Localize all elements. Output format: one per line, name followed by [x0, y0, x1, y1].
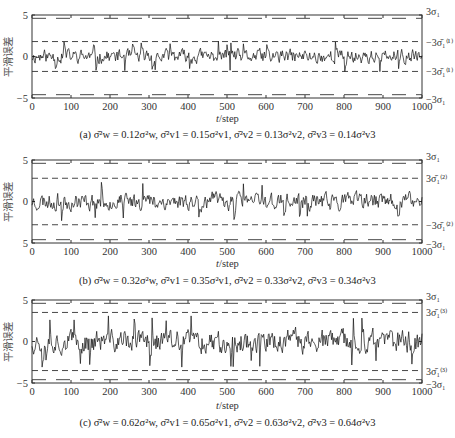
smoothing-error-line	[32, 182, 422, 220]
x-tick-label: 700	[297, 101, 313, 112]
x-tick-label: 500	[219, 101, 235, 112]
y-axis-label: 平滑误差	[2, 37, 14, 77]
x-tick-label: 400	[180, 386, 196, 397]
caption-a: (a) σ̄²w = 0.12σ²w, σ̄²v1 = 0.15σ²v1, σ̄…	[0, 129, 455, 140]
bound-label: −3σ₁	[426, 379, 446, 390]
caption-c: (c) σ̄²w = 0.62σ²w, σ̄²v1 = 0.65σ²v1, σ̄…	[0, 417, 455, 428]
x-tick-label: 800	[336, 386, 352, 397]
x-tick-label: 500	[219, 386, 235, 397]
x-tick-label: 200	[102, 386, 118, 397]
y-tick-label: 0	[23, 51, 28, 62]
y-tick-label: 5	[23, 155, 28, 166]
x-tick-label: 200	[102, 246, 118, 257]
x-tick-label: 700	[297, 246, 313, 257]
bound-label: −3σ̄₁⁽¹⁾	[426, 37, 453, 48]
y-axis-label: 平滑误差	[2, 182, 14, 222]
bound-label: 3σ₁	[426, 291, 440, 302]
smoothing-error-line	[32, 41, 422, 72]
bound-label: −3σ̄₁⁽¹⁾	[426, 66, 453, 77]
x-tick-label: 100	[63, 101, 79, 112]
y-tick-label: 5	[23, 10, 28, 21]
x-tick-label: 0	[29, 246, 34, 257]
x-tick-label: 800	[336, 101, 352, 112]
panel-a: 50−501002003004005006007008009001000平滑误差…	[0, 0, 455, 145]
x-tick-label: 100	[63, 246, 79, 257]
y-tick-label: −5	[17, 93, 28, 104]
bound-label: 3σ̄₁⁽³⁾	[426, 307, 447, 318]
bound-label: 3σ̄₁⁽²⁾	[426, 173, 447, 184]
y-tick-label: 0	[23, 196, 28, 207]
x-tick-label: 700	[297, 386, 313, 397]
x-axis-label: t/step	[0, 400, 455, 411]
x-tick-label: 800	[336, 246, 352, 257]
y-tick-label: 5	[23, 295, 28, 306]
x-tick-label: 600	[258, 246, 274, 257]
x-tick-label: 900	[375, 101, 391, 112]
x-tick-label: 300	[141, 386, 157, 397]
bound-label: 3σ₁	[426, 6, 440, 17]
x-tick-label: 900	[375, 246, 391, 257]
y-tick-label: −5	[17, 378, 28, 389]
x-tick-label: 500	[219, 246, 235, 257]
bound-label: −3σ₁	[426, 94, 446, 105]
x-tick-label: 400	[180, 246, 196, 257]
panel-c: 50−501002003004005006007008009001000平滑误差…	[0, 285, 455, 438]
y-tick-label: 5	[23, 238, 28, 249]
x-tick-label: 0	[29, 386, 34, 397]
panel-b: 50501002003004005006007008009001000平滑误差3…	[0, 145, 455, 290]
x-tick-label: 0	[29, 101, 34, 112]
x-tick-label: 300	[141, 101, 157, 112]
x-tick-label: 400	[180, 101, 196, 112]
y-tick-label: 0	[23, 336, 28, 347]
smoothing-error-line	[32, 316, 422, 367]
bound-label: −3σ̄₁⁽²⁾	[426, 220, 453, 231]
plot-frame	[32, 15, 422, 98]
x-tick-label: 200	[102, 101, 118, 112]
bound-label: −3σ₁	[426, 239, 446, 250]
bound-label: 3σ₁	[426, 151, 440, 162]
plot-c: 50−501002003004005006007008009001000平滑误差…	[0, 285, 455, 438]
x-tick-label: 100	[63, 386, 79, 397]
x-tick-label: 900	[375, 386, 391, 397]
x-axis-label: t/step	[0, 258, 455, 269]
x-axis-label: t/step	[0, 113, 455, 124]
x-tick-label: 600	[258, 101, 274, 112]
x-tick-label: 600	[258, 386, 274, 397]
y-axis-label: 平滑误差	[2, 322, 14, 362]
x-tick-label: 300	[141, 246, 157, 257]
bound-label: 3σ̄₁⁽³⁾	[426, 366, 447, 377]
